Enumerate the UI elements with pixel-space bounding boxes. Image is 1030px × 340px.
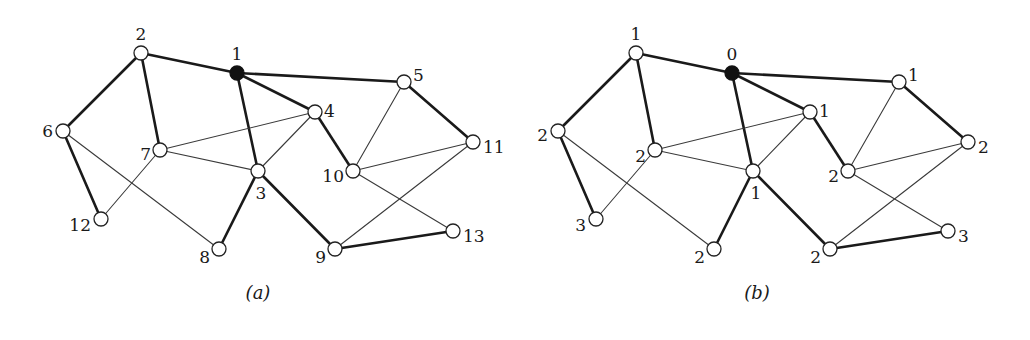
node-label-5: 5	[413, 65, 424, 85]
edge-9-13	[335, 231, 453, 249]
graph-node-7	[648, 143, 662, 157]
node-label-4: 4	[324, 101, 335, 121]
edge-7-4	[160, 112, 315, 150]
edge-6-12	[63, 131, 101, 219]
node-label-1: 1	[232, 44, 243, 64]
edge-5-11	[899, 82, 968, 142]
caption-b: (b)	[744, 282, 770, 303]
node-label-10: 2	[828, 166, 839, 186]
edge-2-1	[141, 53, 237, 73]
node-label-8: 2	[694, 247, 705, 267]
graph-figure: 12345678910111213 (a) 0111122222233 (b)	[0, 0, 1030, 340]
node-label-6: 2	[537, 125, 548, 145]
node-label-7: 7	[140, 144, 151, 164]
graph-node-2	[629, 46, 643, 60]
edge-1-5	[237, 73, 404, 82]
graph-node-6	[551, 124, 565, 138]
edge-4-3	[753, 112, 810, 171]
edge-7-12	[101, 150, 160, 219]
node-label-13: 3	[958, 226, 969, 246]
graph-node-10	[346, 164, 360, 178]
edge-1-3	[237, 73, 258, 171]
node-label-13: 13	[463, 226, 485, 246]
edge-7-3	[655, 150, 753, 171]
edge-1-5	[732, 73, 899, 82]
node-label-12: 3	[575, 215, 586, 235]
node-label-9: 9	[315, 247, 326, 267]
graph-node-5	[397, 75, 411, 89]
node-label-3: 3	[256, 183, 267, 203]
caption-a: (a)	[246, 282, 271, 303]
edge-2-6	[558, 53, 636, 131]
graph-node-4	[803, 105, 817, 119]
node-label-7: 2	[635, 146, 646, 166]
node-label-2: 2	[136, 24, 147, 44]
graph-node-8	[212, 242, 226, 256]
edge-2-7	[141, 53, 160, 150]
node-label-12: 12	[69, 215, 91, 235]
graph-node-3	[746, 164, 760, 178]
graph-panel-b: 0111122222233 (b)	[537, 24, 989, 304]
graph-node-2	[134, 46, 148, 60]
graph-node-11	[961, 135, 975, 149]
edge-1-3	[732, 73, 753, 171]
edge-7-12	[596, 150, 655, 219]
graph-node-4	[308, 105, 322, 119]
graph-node-9	[823, 242, 837, 256]
edge-5-11	[404, 82, 473, 142]
root-node-1	[230, 66, 244, 80]
edge-4-10	[315, 112, 353, 171]
node-label-8: 8	[199, 247, 210, 267]
graph-node-6	[56, 124, 70, 138]
graph-node-10	[841, 164, 855, 178]
node-label-3: 1	[751, 183, 762, 203]
edge-5-10	[353, 82, 404, 171]
edge-2-6	[63, 53, 141, 131]
edge-3-8	[219, 171, 258, 249]
edge-5-10	[848, 82, 899, 171]
graph-panel-a: 12345678910111213 (a)	[42, 24, 504, 304]
graph-node-3	[251, 164, 265, 178]
graph-node-7	[153, 143, 167, 157]
label-layer-b: 0111122222233	[537, 24, 989, 267]
node-label-9: 2	[810, 247, 821, 267]
node-label-11: 2	[978, 137, 989, 157]
edge-3-9	[753, 171, 830, 249]
graph-node-12	[94, 212, 108, 226]
edge-4-10	[810, 112, 848, 171]
node-label-4: 1	[819, 101, 830, 121]
edge-4-3	[258, 112, 315, 171]
graph-node-5	[892, 75, 906, 89]
edge-2-1	[636, 53, 732, 73]
root-node-1	[725, 66, 739, 80]
edge-9-13	[830, 231, 948, 249]
edge-7-3	[160, 150, 258, 171]
node-label-6: 6	[42, 121, 53, 141]
graph-node-12	[589, 212, 603, 226]
edge-1-4	[732, 73, 810, 112]
node-label-10: 10	[322, 166, 344, 186]
node-label-1: 0	[727, 44, 738, 64]
graph-node-8	[707, 242, 721, 256]
edge-1-4	[237, 73, 315, 112]
edge-2-7	[636, 53, 655, 150]
graph-node-13	[446, 224, 460, 238]
edge-3-8	[714, 171, 753, 249]
node-label-11: 11	[483, 137, 505, 157]
label-layer-a: 12345678910111213	[42, 24, 504, 267]
graph-node-9	[328, 242, 342, 256]
node-label-2: 1	[631, 24, 642, 44]
edge-10-13	[353, 171, 453, 231]
node-label-5: 1	[908, 65, 919, 85]
edge-7-4	[655, 112, 810, 150]
graph-node-11	[466, 135, 480, 149]
graph-node-13	[941, 224, 955, 238]
edge-6-12	[558, 131, 596, 219]
edge-10-13	[848, 171, 948, 231]
